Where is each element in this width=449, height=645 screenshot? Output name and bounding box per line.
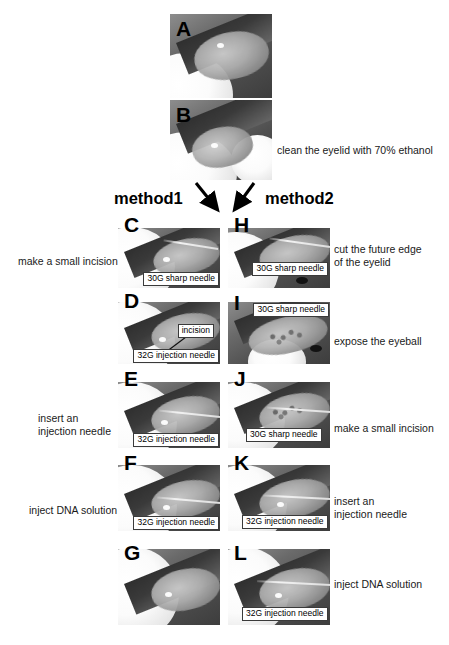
panel-J-annotation-needle: 30G sharp needle [246, 428, 322, 442]
panel-B-caption: clean the eyelid with 70% ethanol [277, 144, 433, 157]
panel-D-annotation-incision: incision [178, 324, 214, 338]
panel-letter-G: G [124, 542, 140, 563]
panel-J-caption: make a small incision [334, 422, 434, 435]
panel-E-image: 32G injection needle [118, 382, 220, 448]
panel-F-annotation-needle: 32G injection needle [133, 516, 219, 530]
photo-dark-spot [296, 277, 308, 284]
panel-letter-F: F [124, 452, 137, 473]
photo-highlight [277, 502, 284, 507]
panel-L-caption: inject DNA solution [334, 578, 422, 591]
panel-I-annotation-needle: 30G sharp needle [253, 303, 329, 317]
panel-letter-K: K [234, 452, 249, 473]
panel-H-annotation-needle: 30G sharp needle [252, 262, 328, 276]
panel-letter-C: C [124, 214, 139, 235]
panel-E-caption: insert an injection needle [38, 412, 111, 439]
panel-letter-J: J [234, 368, 246, 389]
photo-highlight [163, 257, 170, 262]
panel-I-image: 30G sharp needle [228, 302, 330, 364]
panel-C-annotation-needle: 30G sharp needle [143, 272, 219, 286]
panel-letter-L: L [234, 542, 247, 563]
panel-K-caption: insert an injection needle [334, 495, 407, 522]
protocol-figure: A B clean the eyelid with 70% ethanol me… [0, 0, 449, 645]
panel-F-caption: inject DNA solution [29, 504, 117, 517]
panel-C-caption: make a small incision [18, 255, 118, 268]
method1-label: method1 [114, 189, 183, 208]
panel-E-annotation-needle: 32G injection needle [133, 433, 219, 447]
arrow-to-method1 [196, 183, 217, 209]
panel-letter-I: I [234, 292, 240, 313]
photo-highlight [165, 592, 172, 597]
panel-K-annotation-needle: 32G injection needle [242, 515, 328, 529]
photo-highlight [217, 43, 224, 48]
panel-H-caption: cut the future edge of the eyelid [334, 243, 422, 270]
panel-letter-D: D [124, 290, 139, 311]
panel-letter-H: H [234, 214, 249, 235]
panel-letter-A: A [176, 18, 191, 39]
photo-highlight [275, 593, 282, 598]
panel-letter-E: E [124, 368, 138, 389]
photo-dark-spot [310, 345, 322, 352]
photo-highlight [163, 505, 170, 510]
panel-D-annotation-needle: 32G injection needle [133, 349, 219, 363]
panel-K-image: 32G injection needle [228, 465, 330, 531]
panel-I-caption: expose the eyeball [334, 335, 422, 348]
method2-label: method2 [265, 189, 334, 208]
panel-C-image: 30G sharp needle [118, 228, 220, 288]
arrow-to-method2 [235, 183, 254, 209]
panel-F-image: 32G injection needle [118, 465, 220, 531]
panel-J-image: 30G sharp needle [228, 382, 330, 448]
panel-L-annotation-needle: 32G injection needle [242, 607, 328, 621]
panel-letter-B: B [176, 104, 191, 125]
panel-H-image: 30G sharp needle [228, 228, 330, 288]
